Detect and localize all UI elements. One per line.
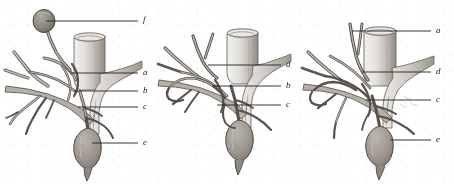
label-a: a [436,26,441,35]
lower-left-branchlets [318,94,346,138]
label-c: c [143,102,147,111]
label-d: d [286,60,291,69]
panel-middle-drawing [155,0,300,185]
label-a: a [143,68,148,77]
label-b: b [143,86,148,95]
label-c: c [286,100,290,109]
label-e: e [143,138,147,147]
lower-left-branchlets [6,96,54,134]
figure-panel-left: f a b c e [0,0,155,185]
label-b: b [286,81,291,90]
upper-left-branch [5,52,48,86]
cut-vessel-stump [364,27,396,86]
label-c: c [436,95,440,104]
vessel-group-right [302,24,434,180]
upper-forked-artery [193,34,217,78]
figure-panel-middle: d b c [155,0,300,185]
figure-panel-right: a d c e [300,0,454,185]
lower-left-branchlets [173,90,199,112]
vessel-group-middle [158,29,291,175]
panel-right-drawing [300,0,454,185]
label-f: f [143,15,146,24]
vessel-group-left [5,10,142,182]
label-d: d [436,67,441,76]
label-e: e [436,135,440,144]
panel-left-drawing [0,0,155,185]
anatomical-plate: f a b c e [0,0,454,185]
